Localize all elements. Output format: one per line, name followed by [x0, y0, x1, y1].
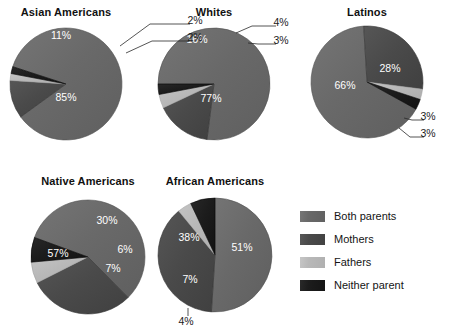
legend-label: Mothers: [334, 234, 374, 245]
slice-percent-label: 57%: [47, 247, 68, 259]
pie-title: Latinos: [347, 6, 387, 18]
slice-percent-label: 66%: [334, 79, 355, 91]
legend-swatch-neither-parent: [300, 280, 325, 291]
slice-percent-label: 6%: [117, 243, 132, 255]
legend-item: Neither parent: [300, 275, 404, 295]
pie-title: Asian Americans: [21, 6, 111, 18]
legend-label: Fathers: [334, 257, 371, 268]
slice-percent-label: 38%: [178, 231, 199, 243]
pie-whites: [158, 28, 270, 140]
legend-label: Both parents: [334, 211, 396, 222]
chart-legend: Both parents Mothers Fathers Neither par…: [300, 206, 404, 298]
pie-african-americans: [158, 198, 272, 312]
slice-percent-label: 11%: [51, 29, 71, 41]
slice-percent-label: 7%: [105, 262, 120, 274]
legend-item: Fathers: [300, 252, 404, 272]
pie-asian-americans: [10, 28, 122, 140]
slice-percent-label: 7%: [182, 273, 197, 285]
pie-title: African Americans: [166, 175, 265, 187]
callout-leader-line: [236, 26, 276, 33]
callout-percent-label: 3%: [420, 110, 435, 122]
callout-percent-label: 3%: [420, 127, 435, 139]
slice-percent-label: 28%: [379, 62, 400, 74]
slice-percent-label: 30%: [96, 214, 117, 226]
pie-latinos: [311, 26, 423, 138]
legend-item: Both parents: [300, 206, 404, 226]
legend-swatch-mothers: [300, 234, 325, 245]
slice-percent-label: 77%: [200, 92, 221, 104]
callout-percent-label: 2%: [187, 31, 202, 43]
callout-percent-label: 4%: [178, 315, 193, 327]
callout-percent-label: 4%: [273, 16, 288, 28]
legend-item: Mothers: [300, 229, 404, 249]
pie-title: Native Americans: [41, 175, 135, 187]
legend-label: Neither parent: [334, 280, 404, 291]
pie-title: Whites: [196, 6, 233, 18]
callout-percent-label: 3%: [273, 34, 288, 46]
pie-slice: [211, 198, 272, 312]
legend-swatch-both-parents: [300, 211, 325, 222]
slice-percent-label: 51%: [231, 241, 252, 253]
pie-slice: [364, 26, 423, 89]
slice-percent-label: 85%: [55, 91, 76, 103]
legend-swatch-fathers: [300, 257, 325, 268]
